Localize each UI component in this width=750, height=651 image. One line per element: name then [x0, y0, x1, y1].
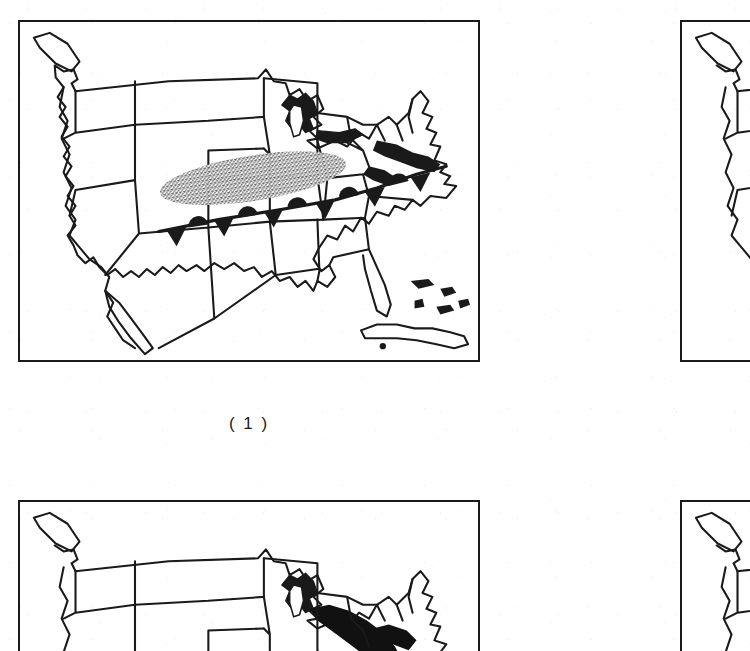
isla-juventud	[380, 343, 386, 349]
us-map-3	[20, 502, 478, 651]
map-panel-2	[680, 20, 750, 362]
map-panel-3	[18, 500, 480, 651]
florida-peninsula	[363, 249, 391, 316]
california-coast	[722, 87, 750, 348]
us-map-4	[682, 502, 750, 651]
dark-shaded-area	[294, 605, 417, 651]
bahamas	[411, 279, 470, 315]
figure-root: ( 1 )	[0, 0, 750, 651]
map-panel-1	[18, 20, 480, 362]
national-outline-west	[717, 545, 750, 596]
lake-erie-ontario	[315, 129, 363, 143]
us-map-1	[20, 22, 478, 360]
panel-1-caption: ( 1 )	[18, 414, 480, 434]
state-borders-west	[64, 78, 264, 348]
california-coast	[722, 567, 750, 651]
national-outline-west	[717, 65, 750, 116]
state-borders-west	[64, 558, 264, 651]
map-panel-4	[680, 500, 750, 651]
lake-michigan	[290, 585, 304, 617]
lake-michigan	[290, 105, 304, 137]
us-map-2	[682, 22, 750, 360]
cuba	[361, 324, 468, 348]
